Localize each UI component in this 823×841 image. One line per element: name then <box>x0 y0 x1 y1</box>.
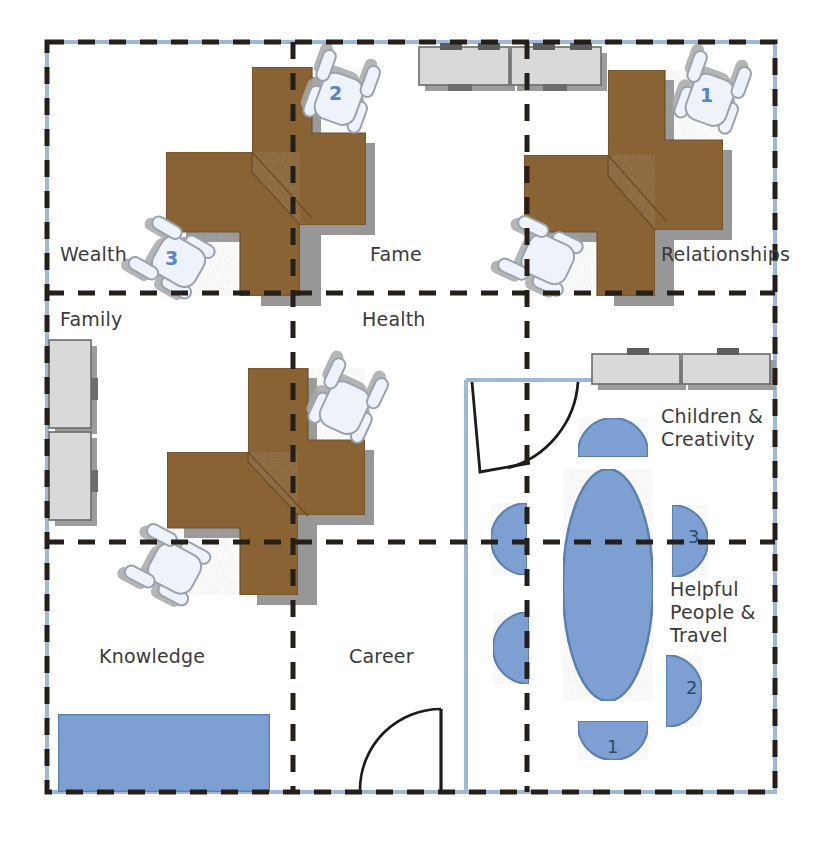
chair-number-3: 3 <box>165 247 178 269</box>
cabinet-right-a <box>592 348 686 390</box>
chair-number-1: 1 <box>700 84 713 106</box>
bagua-label-children: Children & Creativity <box>661 405 763 451</box>
cabinet-right-b <box>682 348 776 390</box>
chair-number-2: 2 <box>329 82 342 104</box>
cabinet-left-upper <box>49 340 98 434</box>
cabinet-left-lower <box>49 432 98 526</box>
bagua-label-health: Health <box>362 308 426 331</box>
bagua-label-wealth: Wealth <box>60 243 127 266</box>
bagua-label-fame: Fame <box>370 243 422 266</box>
door-career <box>360 709 441 790</box>
bagua-label-career: Career <box>349 645 414 668</box>
sofa-knowledge <box>58 714 270 792</box>
bagua-label-relationships: Relationships <box>661 243 790 266</box>
bagua-label-helpful: Helpful People & Travel <box>670 578 756 647</box>
conference-seat-left-lower <box>493 612 529 684</box>
bagua-label-knowledge: Knowledge <box>99 645 205 668</box>
seat-number-1: 1 <box>607 736 618 757</box>
seat-number-2: 2 <box>686 677 697 698</box>
conference-seat-top <box>578 418 648 457</box>
cabinet-top-left <box>419 43 515 91</box>
seat-number-3: 3 <box>688 526 699 547</box>
conference-table <box>563 469 653 701</box>
conference-seat-left-upper <box>491 503 527 575</box>
bagua-label-family: Family <box>60 308 122 331</box>
